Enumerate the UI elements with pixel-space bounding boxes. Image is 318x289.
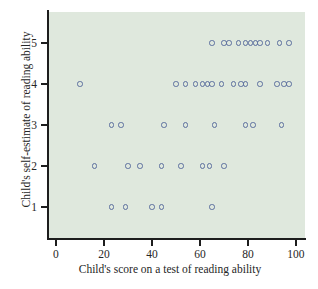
- x-tick-100: 100: [295, 240, 297, 246]
- data-point: [286, 81, 291, 86]
- data-point: [257, 40, 262, 45]
- data-point: [77, 81, 82, 86]
- data-point: [183, 122, 188, 127]
- data-point: [257, 81, 262, 86]
- x-tick-label: 40: [146, 248, 158, 260]
- x-tick-40: 40: [151, 240, 153, 246]
- scatter-plot-figure: 12345 020406080100 Child's self-estimate…: [0, 0, 318, 289]
- data-point: [207, 163, 212, 168]
- data-point: [236, 40, 241, 45]
- data-point: [226, 40, 231, 45]
- data-point: [109, 122, 114, 127]
- data-point: [209, 40, 214, 45]
- data-point: [243, 81, 248, 86]
- data-point: [137, 163, 142, 168]
- data-point: [178, 163, 183, 168]
- x-axis-label: Child's score on a test of reading abili…: [30, 262, 310, 276]
- data-point: [193, 81, 198, 86]
- data-point: [286, 40, 291, 45]
- data-point: [161, 122, 166, 127]
- data-point: [277, 40, 282, 45]
- data-point: [209, 204, 214, 209]
- data-point: [159, 204, 164, 209]
- data-point: [159, 163, 164, 168]
- data-point: [173, 81, 178, 86]
- data-point: [243, 122, 248, 127]
- y-tick-2: 2: [41, 165, 47, 167]
- data-point: [265, 40, 270, 45]
- y-tick-4: 4: [41, 83, 47, 85]
- data-point: [125, 163, 130, 168]
- y-tick-1: 1: [41, 206, 47, 208]
- data-point: [231, 81, 236, 86]
- x-tick-80: 80: [247, 240, 249, 246]
- plot-area: [49, 12, 305, 238]
- x-tick-60: 60: [199, 240, 201, 246]
- x-tick-0: 0: [55, 240, 57, 246]
- data-point: [118, 122, 123, 127]
- data-point: [109, 204, 114, 209]
- data-point: [183, 81, 188, 86]
- data-point: [200, 163, 205, 168]
- data-point: [209, 81, 214, 86]
- x-tick-label: 20: [98, 248, 110, 260]
- x-tick-label: 60: [194, 248, 206, 260]
- x-tick-label: 0: [53, 248, 59, 260]
- x-tick-label: 100: [287, 248, 304, 260]
- data-point: [274, 81, 279, 86]
- data-point: [250, 122, 255, 127]
- y-tick-5: 5: [41, 42, 47, 44]
- data-point: [92, 163, 97, 168]
- y-tick-3: 3: [41, 124, 47, 126]
- data-point: [212, 122, 217, 127]
- y-axis-label: Child's self-estimate of reading ability: [17, 7, 35, 232]
- data-point: [221, 163, 226, 168]
- x-tick-20: 20: [103, 240, 105, 246]
- data-point: [149, 204, 154, 209]
- data-point: [123, 204, 128, 209]
- x-tick-label: 80: [242, 248, 254, 260]
- data-point: [279, 122, 284, 127]
- data-point: [219, 81, 224, 86]
- x-axis-spine: [47, 238, 306, 240]
